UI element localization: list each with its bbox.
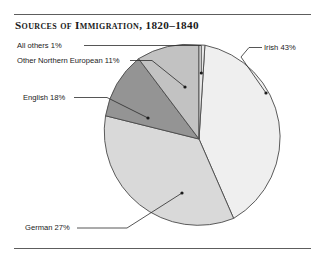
bottom-divider-rule xyxy=(14,248,311,249)
slice-label-english: English 18% xyxy=(23,94,65,102)
slice-label-german: German 27% xyxy=(25,224,70,232)
figure-page: Sources of Immigration, 1820–1840 xyxy=(0,0,325,264)
slice-label-all-others: All others 1% xyxy=(17,42,62,50)
slice-label-irish: Irish 43% xyxy=(264,44,296,52)
slice-label-other-northern-european: Other Northern European 11% xyxy=(17,57,119,65)
